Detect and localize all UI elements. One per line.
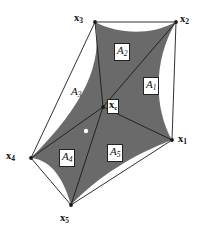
area-label-a4: A4 <box>59 149 75 167</box>
center-label-xc: xc <box>107 99 119 114</box>
edge-x1-x2 <box>172 22 176 140</box>
vertex-label-x5: x5 <box>60 213 69 224</box>
figure-canvas <box>0 0 203 234</box>
vertex-marker-x1 <box>170 138 174 142</box>
vertex-label-x1: x1 <box>178 134 187 145</box>
white-dot-icon <box>84 129 88 133</box>
center-marker-xc <box>101 105 105 109</box>
vertex-marker-x3 <box>93 20 97 24</box>
area-label-a3: A3 <box>71 86 81 99</box>
area-label-a2: A2 <box>114 43 130 61</box>
geometry-figure: x1 x2 x3 x4 x5 xc A1 A2 A3 A4 A5 <box>0 0 203 234</box>
vertex-label-x3: x3 <box>74 13 83 24</box>
vertex-marker-x2 <box>174 20 178 24</box>
vertex-marker-x5 <box>69 203 73 207</box>
vertex-marker-x4 <box>29 156 33 160</box>
area-label-a5: A5 <box>107 144 123 162</box>
area-label-a1: A1 <box>143 77 159 95</box>
vertex-label-x2: x2 <box>180 14 189 25</box>
shaded-region <box>31 22 176 205</box>
vertex-label-x4: x4 <box>6 151 15 162</box>
